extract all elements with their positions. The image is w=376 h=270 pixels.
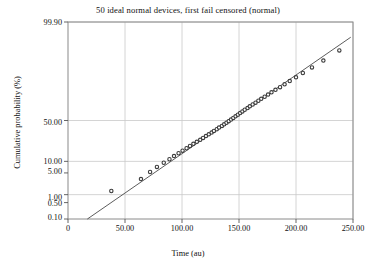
data-point [168,158,171,161]
data-point [188,144,191,147]
data-point [288,79,291,82]
data-point [263,95,266,98]
data-point [148,170,151,173]
data-point [181,149,184,152]
data-point [294,76,297,79]
data-point [192,142,195,145]
plot-canvas [0,0,376,270]
data-point [155,165,158,168]
data-point [185,147,188,150]
normal-probability-plot: 50 ideal normal devices, first fail cens… [0,0,376,270]
data-point [139,177,142,180]
data-point [110,189,113,192]
data-point [195,140,198,143]
data-point [274,88,277,91]
data-point [270,91,273,94]
data-point [283,83,286,86]
data-point [266,93,269,96]
data-point [260,97,263,100]
data-point [301,71,304,74]
data-point [310,66,313,69]
data-point [162,161,165,164]
data-point [278,85,281,88]
data-point [172,154,175,157]
data-point [322,59,325,62]
data-point [338,49,341,52]
data-point [177,152,180,155]
